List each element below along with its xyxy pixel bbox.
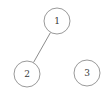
node-label-3: 3	[84, 68, 90, 78]
graph-canvas: 123	[0, 0, 109, 98]
edge-1-2	[33, 32, 50, 62]
graph-node-1: 1	[44, 8, 70, 34]
node-label-1: 1	[54, 16, 60, 26]
graph-node-2: 2	[14, 61, 40, 87]
node-label-2: 2	[24, 69, 30, 79]
graph-node-3: 3	[74, 60, 100, 86]
